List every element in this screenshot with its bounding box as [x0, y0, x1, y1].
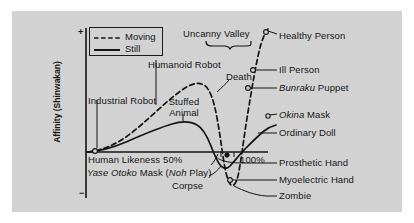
x-axis-label: Human Likeness	[88, 155, 160, 166]
legend-label-moving: Moving	[125, 31, 156, 42]
annotation-yase-otoko-italic: Yase Otoko	[87, 167, 137, 178]
leader-okina-mask	[270, 114, 277, 115]
annotation-corpse: Corpse	[172, 181, 203, 192]
marker-industrial-robot	[93, 149, 98, 154]
uncanny-valley-brace	[206, 41, 251, 49]
x-tick-label-50: 50%	[163, 155, 182, 166]
legend-swatch-still	[94, 44, 120, 56]
annotation-humanoid-robot: Humanoid Robot	[148, 60, 221, 71]
marker-healthy-person	[264, 30, 269, 35]
annotation-yase-otoko-mask: Yase Otoko Mask (Noh Play)	[87, 168, 211, 179]
y-axis-label: Affinity (Shinwakan)	[52, 52, 62, 152]
annotation-okina-mask: Okina Mask	[279, 110, 330, 121]
annotation-healthy-person: Healthy Person	[279, 31, 345, 42]
leader-healthy-person	[268, 31, 277, 34]
uncanny-valley-figure: + − Affinity (Shinwakan) Moving Still Un…	[0, 0, 414, 223]
annotation-mask-roman: Mask	[304, 109, 330, 120]
legend: Moving Still	[89, 27, 163, 56]
annotation-ill-person: Ill Person	[279, 65, 320, 76]
annotation-okina-italic: Okina	[279, 109, 304, 120]
x-tick-label-100: 100%	[240, 155, 265, 166]
annotation-death: Death	[226, 72, 252, 83]
legend-label-still: Still	[125, 43, 140, 54]
marker-myoelectric-hand	[228, 178, 233, 183]
annotation-ordinary-doll: Ordinary Doll	[279, 128, 336, 139]
y-axis-positive-mark: +	[78, 27, 83, 37]
marker-valley-bottom	[225, 153, 229, 157]
annotation-stuffed-animal-line1: Stuffed	[164, 97, 204, 108]
annotation-zombie: Zombie	[279, 191, 311, 202]
annotation-bunraku-puppet: Bunraku Puppet	[279, 83, 349, 94]
marker-okina-mask	[266, 114, 270, 118]
annotation-noh-italic: Noh	[169, 167, 187, 178]
annotation-myoelectric-hand: Myoelectric Hand	[279, 175, 354, 186]
legend-item-moving[interactable]: Moving	[94, 30, 120, 42]
annotation-mask-paren-open: Mask (	[137, 167, 169, 178]
annotation-play-paren-close: Play)	[187, 167, 212, 178]
leader-zombie	[234, 186, 277, 196]
y-axis-negative-mark: −	[79, 188, 84, 198]
legend-item-still[interactable]: Still	[94, 42, 120, 54]
annotation-bunraku-italic: Bunraku	[279, 82, 315, 93]
annotation-industrial-robot: Industrial Robot	[88, 96, 156, 107]
annotation-stuffed-animal-line2: Animal	[164, 108, 204, 119]
marker-bunraku-puppet	[246, 86, 251, 91]
annotation-puppet-roman: Puppet	[315, 82, 348, 93]
annotation-prosthetic-hand: Prosthetic Hand	[279, 158, 348, 169]
annotation-uncanny-valley: Uncanny Valley	[183, 29, 250, 40]
